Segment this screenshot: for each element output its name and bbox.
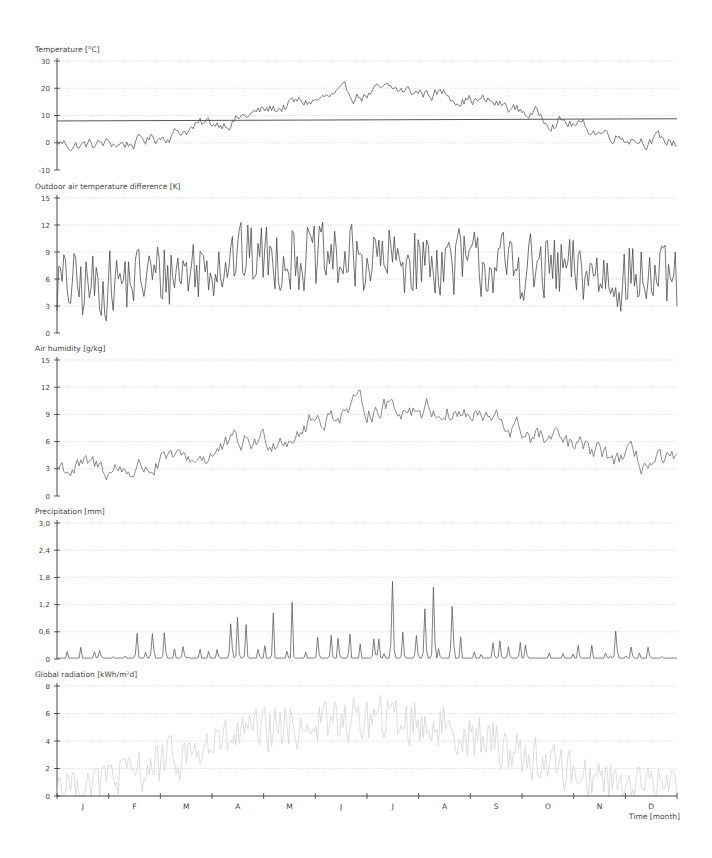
y-tick-label: 8 [46,683,50,691]
y-tick-label: 30 [41,58,50,66]
y-tick-label: 0 [46,656,50,664]
month-label: S [494,802,499,811]
y-tick-label: 0 [46,139,50,147]
y-tick-label: 6 [46,276,51,284]
y-tick-label: 12 [41,222,50,230]
panel-title: Global radiation [kWh/m²d] [35,670,137,679]
month-label: A [442,802,448,811]
chart-panel-4: Global radiation [kWh/m²d]02468 [35,670,677,801]
chart-panel-0: Temperature [°C]-100102030 [34,45,677,175]
y-tick-label: 1,2 [39,601,50,609]
y-tick-label: 0 [46,330,50,338]
chart-panel-3: Precipitation [mm]00,61,21,82,43,0 [35,507,677,664]
y-tick-label: 0,6 [39,628,51,636]
y-tick-label: 4 [46,738,51,746]
y-tick-label: 3 [46,303,50,311]
month-label: A [235,802,241,811]
y-tick-label: -10 [39,167,50,175]
data-series-line [57,82,677,151]
panel-title: Air humidity [g/kg] [35,344,106,353]
y-tick-label: 12 [41,384,50,392]
y-tick-label: 1,8 [39,574,50,582]
panel-title: Outdoor air temperature difference [K] [35,182,181,191]
y-tick-label: 0 [46,493,50,501]
month-label: D [648,802,654,811]
month-label: J [339,802,342,811]
month-label: N [597,802,603,811]
y-tick-label: 0 [46,793,50,801]
chart-panel-2: Air humidity [g/kg]03691215 [35,344,677,501]
y-tick-label: 6 [46,438,51,446]
month-label: J [391,802,394,811]
panel-title: Temperature [°C] [34,45,100,54]
y-tick-label: 20 [41,85,50,93]
chart-panel-1: Outdoor air temperature difference [K]03… [35,182,677,338]
panel-title: Precipitation [mm] [35,507,105,516]
time-axis: JFMAMJJASONDTime [month] [57,793,680,821]
month-label: O [545,802,551,811]
x-axis-title: Time [month] [628,812,680,821]
data-series-line [57,390,677,480]
month-label: M [183,802,189,811]
y-tick-label: 15 [41,195,50,203]
month-label: M [286,802,292,811]
month-label: F [132,802,136,811]
y-tick-label: 3,0 [39,520,50,528]
y-tick-label: 6 [46,710,51,718]
y-tick-label: 15 [41,357,50,365]
y-tick-label: 9 [46,249,50,257]
y-tick-label: 2 [46,765,50,773]
month-label: J [81,802,84,811]
y-tick-label: 9 [46,411,50,419]
y-tick-label: 10 [41,112,50,120]
y-tick-label: 2,4 [39,547,51,555]
y-tick-label: 3 [46,465,50,473]
climate-chart-panel: Temperature [°C]-100102030Outdoor air te… [0,0,712,858]
data-series-line [57,581,677,658]
data-series-line [57,695,677,796]
